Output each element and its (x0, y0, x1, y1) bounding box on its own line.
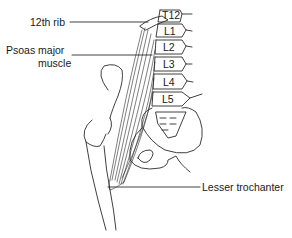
ilium (101, 65, 123, 118)
vertebra-label-l5: L5 (162, 93, 174, 105)
vertebral-column (152, 10, 202, 106)
psoas-muscle (109, 28, 155, 190)
vertebra-label-l2: L2 (163, 41, 175, 53)
pelvis (130, 108, 203, 173)
vertebra-label-t12: T12 (162, 9, 180, 21)
vertebra-label-l4: L4 (163, 76, 175, 88)
vertebra-label-l1: L1 (164, 25, 176, 37)
psoas-label-line2: muscle (38, 57, 71, 69)
anatomy-drawing (0, 0, 292, 238)
psoas-label-line1: Psoas major (6, 44, 64, 56)
lesser-trochanter-label: Lesser trochanter (202, 181, 284, 193)
rib-label: 12th rib (30, 16, 65, 28)
vertebra-label-l3: L3 (163, 58, 175, 70)
